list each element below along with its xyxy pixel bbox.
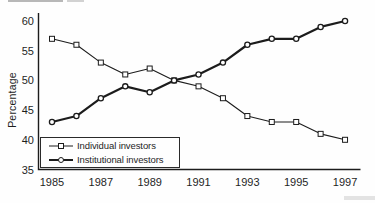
data-point-square bbox=[196, 84, 201, 89]
x-tick-label: 1989 bbox=[137, 176, 161, 188]
legend-item-individual-investors: Individual investors bbox=[49, 140, 179, 152]
data-point-circle bbox=[318, 24, 323, 29]
legend-item-institutional-investors: Institutional investors bbox=[49, 154, 179, 166]
scan-artifact-line bbox=[8, 0, 63, 2]
legend: Individual investors Institutional inves… bbox=[40, 137, 180, 168]
data-point-circle bbox=[172, 78, 177, 83]
data-point-circle bbox=[294, 36, 299, 41]
legend-label-institutional-investors: Institutional investors bbox=[77, 154, 163, 165]
data-point-square bbox=[74, 42, 79, 47]
x-tick-label: 1987 bbox=[89, 176, 113, 188]
square-marker-icon bbox=[49, 142, 73, 150]
data-point-square bbox=[50, 36, 55, 41]
y-tick-label: 55 bbox=[22, 45, 34, 57]
x-tick-label: 1997 bbox=[333, 176, 357, 188]
data-point-circle bbox=[196, 72, 201, 77]
data-point-square bbox=[343, 137, 348, 142]
data-point-square bbox=[220, 96, 225, 101]
x-tick-label: 1993 bbox=[235, 176, 259, 188]
x-tick-label: 1991 bbox=[186, 176, 210, 188]
y-tick-label: 45 bbox=[22, 104, 34, 116]
data-point-circle bbox=[147, 90, 152, 95]
data-point-square bbox=[123, 72, 128, 77]
data-point-circle bbox=[74, 113, 79, 118]
scan-artifact-smudge bbox=[344, 196, 375, 200]
data-point-circle bbox=[49, 119, 54, 124]
y-tick-label: 35 bbox=[22, 164, 34, 176]
data-point-circle bbox=[342, 18, 347, 23]
data-point-square bbox=[98, 60, 103, 65]
data-point-circle bbox=[123, 84, 128, 89]
y-axis-title: Percentage bbox=[6, 72, 18, 128]
data-point-circle bbox=[98, 96, 103, 101]
legend-label-individual-investors: Individual investors bbox=[77, 140, 156, 151]
y-tick-label: 60 bbox=[22, 15, 34, 27]
data-point-square bbox=[318, 131, 323, 136]
data-point-circle bbox=[220, 60, 225, 65]
data-point-circle bbox=[245, 42, 250, 47]
x-tick-label: 1985 bbox=[40, 176, 64, 188]
data-point-square bbox=[294, 119, 299, 124]
x-tick-label: 1995 bbox=[284, 176, 308, 188]
data-point-square bbox=[147, 66, 152, 71]
y-tick-label: 50 bbox=[22, 74, 34, 86]
data-point-square bbox=[245, 114, 250, 119]
investor-ownership-chart: 3540455055601985198719891991199319951997… bbox=[0, 0, 375, 203]
chart-canvas: 3540455055601985198719891991199319951997 bbox=[0, 0, 375, 203]
scan-artifact-line bbox=[67, 0, 84, 2]
data-point-circle bbox=[269, 36, 274, 41]
data-point-square bbox=[269, 119, 274, 124]
y-tick-label: 40 bbox=[22, 134, 34, 146]
circle-marker-icon bbox=[49, 156, 73, 164]
